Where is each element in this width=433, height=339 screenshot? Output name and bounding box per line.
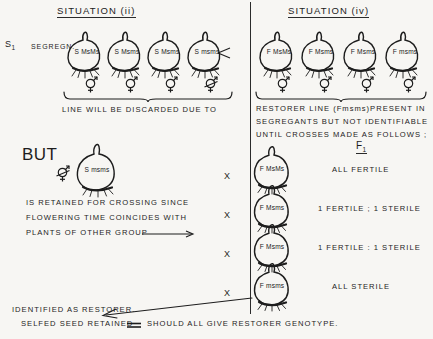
stage-label-subscript: 1: [12, 44, 16, 51]
but-caption-line-3: PLANTS OF OTHER GROUP: [26, 229, 148, 237]
left-onion-row-svg: [64, 30, 224, 80]
cross-result-2: 1 FERTILE ; 1 STERILE: [318, 205, 421, 213]
f1-letter: F: [356, 140, 363, 151]
cross-result-1: ALL FERTILE: [332, 166, 389, 174]
footer-line-3: SHOULD ALL GIVE RESTORER GENOTYPE.: [147, 320, 338, 328]
right-brace: [255, 91, 427, 103]
but-caption-line-2: FLOWERING TIME COINCIDES WITH: [26, 214, 187, 222]
but-onion: S msms: [73, 142, 121, 198]
right-brace-caption-line-2: SEGREGANTS BUT NOT IDENTIFIABLE: [256, 118, 428, 126]
situation-iv-title: SITUATION (iv): [288, 6, 369, 18]
right-brace-caption-line-1: RESTORER LINE (Fmsms)PRESENT IN: [256, 105, 426, 113]
stage-label-s1: S1: [5, 40, 16, 51]
footer-line-1: IDENTIFIED AS RESTORER.: [12, 306, 135, 314]
cross-mark-2: X: [224, 211, 230, 221]
left-brace: [63, 91, 233, 103]
cross-mark-1: X: [224, 172, 230, 182]
sterility-pointer-arrow: [215, 46, 231, 60]
left-onion-row: S MsMs S Msms S Msms S msms: [64, 30, 224, 80]
right-onion-row: F MsMs F Msms F Msms F msms: [256, 30, 424, 80]
cross-result-4: ALL STERILE: [332, 283, 390, 291]
but-symbol-hermaphrodite-struck: [56, 165, 72, 182]
diagram-canvas: SITUATION (ii) SITUATION (iv) S1 SEGREGN…: [0, 0, 433, 339]
cross-result-3: 1 FERTILE : 1 STERILE: [318, 244, 421, 252]
right-brace-caption-line-3: UNTIL CROSSES MADE AS FOLLOWS ;: [256, 131, 427, 139]
situation-ii-title: SITUATION (ii): [57, 6, 136, 18]
but-onion-svg: [73, 142, 121, 198]
footer-line-2: SELFED SEED RETAINED: [21, 320, 133, 328]
but-caption-arrow: [142, 228, 198, 240]
f1-subscript: 1: [363, 146, 367, 153]
f1-column-header: F1: [356, 140, 367, 154]
but-label: BUT: [22, 146, 58, 165]
but-caption-line-1: IS RETAINED FOR CROSSING SINCE: [26, 199, 189, 207]
left-brace-caption: LINE WILL BE DISCARDED DUE TO: [62, 106, 217, 114]
equals-connector: [126, 321, 142, 329]
cross-mark-3: X: [224, 250, 230, 260]
right-onion-row-svg: [256, 30, 424, 80]
